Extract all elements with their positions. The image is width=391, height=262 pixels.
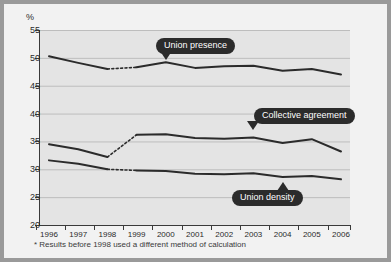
callout-union-density: Union density [232, 190, 303, 206]
x-axis-tick-label: 2006 [325, 230, 357, 239]
x-axis-tick-label: 1998 [91, 230, 123, 239]
x-axis-tick-label: 2002 [208, 230, 240, 239]
x-axis-tick-label: 1996 [33, 230, 65, 239]
chart-footnote: * Results before 1998 used a different m… [34, 240, 246, 249]
y-axis-tick-label: 40 [14, 109, 40, 119]
x-axis-tick-label: 1999 [121, 230, 153, 239]
x-axis-tick-label: 2004 [267, 230, 299, 239]
series-lines [40, 30, 350, 225]
y-axis-tick-label: 25 [14, 192, 40, 202]
callout-collective-agreement: Collective agreement [254, 108, 355, 124]
x-axis-tick-label: 2003 [237, 230, 269, 239]
x-axis-tick-label: 2001 [179, 230, 211, 239]
callout-pointer-up [277, 182, 289, 191]
y-axis-tick-label: 30 [14, 164, 40, 174]
y-axis-tick-label: 55 [14, 25, 40, 35]
chart-figure: % 5550454035302520 199619971998199920002… [4, 4, 387, 258]
y-axis-tick-label: 35 [14, 136, 40, 146]
y-axis-tick-label: 45 [14, 81, 40, 91]
x-axis-line [40, 225, 351, 226]
x-axis-tick-label: 1997 [62, 230, 94, 239]
x-axis-tick-label: 2000 [150, 230, 182, 239]
callout-pointer-down [247, 121, 259, 130]
y-axis-unit-label: % [26, 12, 34, 22]
y-axis-tick-label: 50 [14, 53, 40, 63]
plot-area [40, 30, 350, 225]
callout-pointer-down [160, 51, 172, 60]
x-axis-tick-label: 2005 [296, 230, 328, 239]
